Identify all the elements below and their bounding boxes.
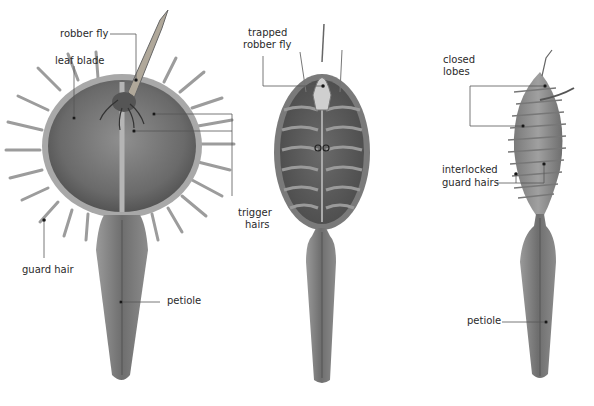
- open-trap-drawing: [6, 10, 234, 380]
- label-trigger-hairs-line1: trigger: [238, 207, 272, 219]
- label-closed-lobes-line2: lobes: [443, 66, 470, 78]
- label-petiole-open: petiole: [167, 295, 201, 307]
- label-leaf-blade: leaf blade: [55, 55, 105, 67]
- label-interlocked-line1: interlocked: [442, 164, 498, 176]
- closed-trap-drawing: [508, 50, 574, 378]
- label-guard-hair: guard hair: [22, 264, 74, 276]
- label-trapped-line1: trapped: [248, 27, 287, 39]
- label-closed-lobes-line1: closed: [443, 54, 475, 66]
- label-interlocked-line2: guard hairs: [442, 177, 499, 189]
- label-robber-fly: robber fly: [60, 28, 108, 40]
- label-trapped-line2: robber fly: [243, 39, 291, 51]
- label-trigger-hairs-line2: hairs: [245, 219, 270, 231]
- closing-trap-drawing: [274, 24, 370, 383]
- label-petiole-closed: petiole: [467, 315, 501, 327]
